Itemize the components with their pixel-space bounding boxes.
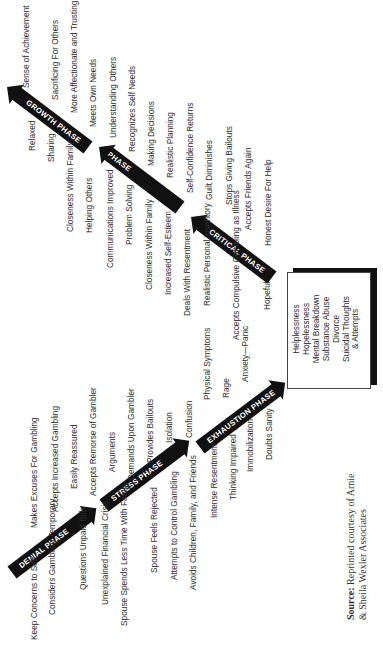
growth-item: Relaxed bbox=[28, 121, 37, 151]
exhaustion-item: Rage bbox=[222, 378, 231, 398]
growth-item: Sense of Achievement bbox=[22, 36, 31, 88]
denial-item: Questions Unpaid Bills bbox=[79, 507, 88, 590]
growth-item: Meets Own Needs bbox=[89, 59, 98, 127]
growth-item: Sharing bbox=[47, 133, 56, 162]
rebuilding-item: Communications Improved bbox=[106, 169, 115, 268]
critical-item: Realistic Personal Inventory bbox=[203, 244, 212, 306]
stress-item: Spouse Feels Rejected bbox=[150, 487, 159, 573]
outcome-item: & Attempts bbox=[351, 276, 361, 382]
rebuilding-item: Closeness Within Family bbox=[145, 199, 154, 290]
growth-item: Closeness Within Family bbox=[66, 141, 75, 232]
stress-item: Arguments bbox=[108, 432, 117, 472]
critical-item: Honest Desire For Help bbox=[264, 159, 273, 246]
exhaustion-item: Anxiety—Panic bbox=[241, 356, 250, 382]
exhaustion-item: Thinking Impaired bbox=[229, 434, 238, 500]
rebuilding-item: Problem Solving bbox=[125, 185, 134, 245]
denial-item: Easily Reassured bbox=[70, 424, 79, 489]
critical-item: Hopeful bbox=[263, 281, 272, 310]
exhaustion-item: Doubts Sanity bbox=[265, 408, 274, 460]
critical-item: Stops Giving Bailouts bbox=[225, 126, 234, 205]
rebuilding-item: Recognizes Self Needs bbox=[128, 66, 137, 152]
denial-item: Accepts Increased Gambling bbox=[51, 406, 60, 512]
stress-item: Provides Bailouts bbox=[146, 399, 155, 463]
growth-item: More Affectionate and Trusting bbox=[70, 1, 79, 113]
stress-item: Confusion bbox=[185, 401, 194, 438]
rebuilding-item: Increased Self-Esteem bbox=[164, 211, 173, 295]
rebuilding-item: Realistic Planning bbox=[166, 112, 175, 178]
denial-item: Accepts Remorse of Gambler bbox=[89, 387, 98, 496]
source-line-2: & Sheila Wexler Associates bbox=[357, 474, 369, 620]
stress-item: Unexplained Financial Crisis bbox=[101, 500, 110, 605]
stress-item: Demands Upon Gambler bbox=[127, 388, 136, 480]
source-line-1: Reprinted courtesy of Arnie bbox=[345, 474, 356, 585]
rebuilding-item: Self-Confidence Returns bbox=[186, 103, 195, 193]
growth-item: Helping Others bbox=[85, 178, 94, 233]
critical-item: Accepts Friends Again bbox=[244, 147, 253, 230]
exhaustion-item: Intense Resentment bbox=[210, 444, 219, 518]
stress-item: Avoids Children, Family, and Friends bbox=[189, 455, 198, 590]
stress-item: Spouse Spends Less Time With Family bbox=[120, 482, 129, 626]
critical-item: Guilt Diminishes bbox=[205, 140, 214, 200]
stress-item: Isolation bbox=[165, 412, 174, 443]
critical-item: Deals With Resentment bbox=[183, 229, 192, 316]
stress-item: Attempts to Control Gambling bbox=[170, 471, 179, 580]
source-credit: Source: Reprinted courtesy of Arnie & Sh… bbox=[345, 474, 369, 620]
rebuilding-item: Understanding Others bbox=[109, 57, 118, 138]
rebuilding-item: Making Decisions bbox=[147, 101, 156, 166]
denial-item: Considers Gambling Temporary bbox=[48, 555, 57, 615]
exhaustion-item: Immobilization bbox=[246, 419, 255, 472]
denial-item: Keep Concerns to Self bbox=[30, 557, 39, 640]
outcome-box-text: Helplessness Hopelessness Mental Breakdo… bbox=[292, 276, 361, 382]
denial-item: Makes Excuses For Gambling bbox=[30, 417, 39, 528]
growth-item: Sacrificing For Others bbox=[51, 20, 60, 100]
exhaustion-item: Physical Symptoms bbox=[203, 328, 212, 400]
source-label: Source: bbox=[345, 587, 356, 620]
critical-item: Accepts Compulsive Gambling as Illness bbox=[232, 270, 241, 340]
denial-phase-label: DENIAL PHASE bbox=[17, 527, 70, 570]
